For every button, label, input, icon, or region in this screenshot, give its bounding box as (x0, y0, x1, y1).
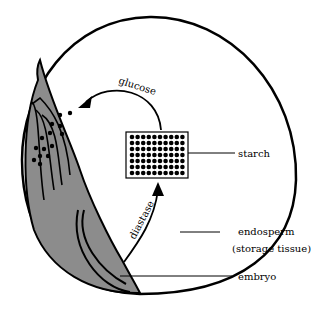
storage-tissue-label: (storage tissue) (232, 243, 311, 254)
endosperm-label: endosperm (238, 226, 295, 237)
seed-diagram: glucose diastase starch endosperm (stora… (0, 0, 314, 310)
embryo-label: embryo (238, 271, 276, 282)
starch-label: starch (238, 148, 270, 159)
